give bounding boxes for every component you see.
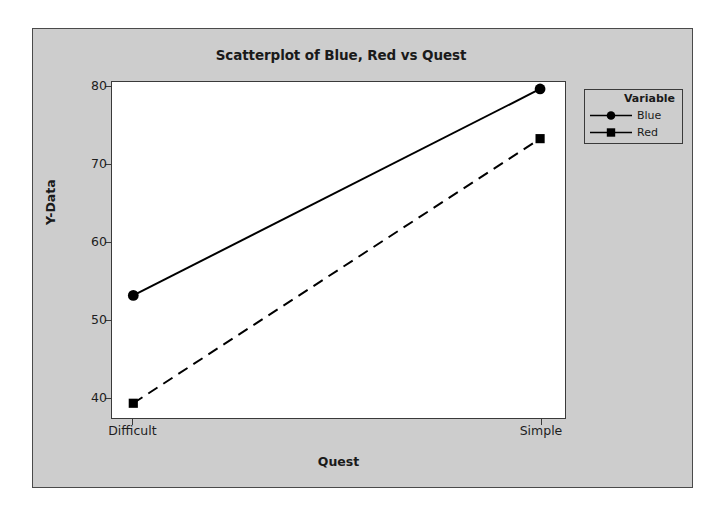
legend-item-blue[interactable]: Blue (585, 107, 682, 124)
y-tick-label: 50 (79, 314, 107, 326)
plot-area (111, 81, 566, 419)
y-tick-label: 80 (79, 80, 107, 92)
x-tick-label: Simple (520, 423, 563, 438)
x-tick-label: Difficult (108, 423, 156, 438)
screenshot-root: Scatterplot of Blue, Red vs Quest Y-Data… (0, 0, 723, 508)
y-axis-label: Y-Data (43, 179, 58, 225)
legend-title: Variable (624, 92, 675, 105)
data-point-blue[interactable] (535, 84, 546, 95)
y-tick-label: 40 (79, 392, 107, 404)
y-axis-ticks: 4050607080 (75, 29, 107, 489)
x-axis-label: Quest (111, 454, 566, 469)
plot-series-canvas (112, 82, 565, 418)
data-point-blue[interactable] (128, 290, 139, 301)
page-title: Scatterplot of Blue, Red vs Quest (111, 47, 571, 63)
legend: Variable Blue Red (584, 89, 683, 144)
legend-label: Blue (637, 109, 661, 122)
data-point-red[interactable] (129, 399, 138, 408)
legend-label: Red (637, 126, 658, 139)
y-tick-label: 70 (79, 158, 107, 170)
series-line-blue (133, 89, 540, 295)
graph-panel: Scatterplot of Blue, Red vs Quest Y-Data… (32, 28, 693, 488)
series-line-red (133, 139, 540, 404)
y-tick-label: 60 (79, 236, 107, 248)
data-point-red[interactable] (536, 134, 545, 143)
legend-item-red[interactable]: Red (585, 124, 682, 141)
square-marker-icon (588, 124, 634, 141)
circle-marker-icon (588, 107, 634, 124)
